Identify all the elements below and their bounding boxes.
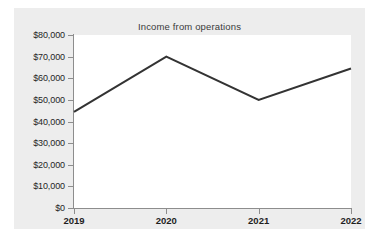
- chart-figure: Income from operations $0$10,000$20,000$…: [14, 8, 365, 229]
- y-axis-tick-label: $70,000: [0, 52, 65, 62]
- income-from-operations-line: [74, 57, 351, 112]
- y-axis-tick-label: $10,000: [0, 181, 65, 191]
- y-axis-tick-label: $20,000: [0, 160, 65, 170]
- y-axis-tick-label: $60,000: [0, 73, 65, 83]
- y-axis-tick: [68, 78, 73, 79]
- x-axis-tick-label: 2020: [131, 215, 201, 226]
- series-line-chart: [74, 35, 351, 208]
- x-axis-tick: [259, 209, 260, 214]
- x-axis-spine: [73, 208, 352, 209]
- y-axis-tick: [68, 122, 73, 123]
- y-axis-tick-label: $80,000: [0, 30, 65, 40]
- chart-title: Income from operations: [14, 21, 365, 32]
- x-axis-tick-label: 2022: [316, 215, 375, 226]
- y-axis-tick-label: $30,000: [0, 138, 65, 148]
- x-axis-tick-label: 2021: [224, 215, 294, 226]
- y-axis-tick: [68, 35, 73, 36]
- y-axis-tick: [68, 57, 73, 58]
- x-axis-tick: [166, 209, 167, 214]
- x-axis-tick: [351, 209, 352, 214]
- y-axis-tick: [68, 208, 73, 209]
- y-axis-tick-label: $0: [0, 203, 65, 213]
- plot-area: [74, 35, 351, 208]
- y-axis-tick: [68, 186, 73, 187]
- y-axis-tick-label: $40,000: [0, 117, 65, 127]
- x-axis-tick-label: 2019: [39, 215, 109, 226]
- y-axis-tick: [68, 100, 73, 101]
- y-axis-tick: [68, 143, 73, 144]
- y-axis-tick: [68, 165, 73, 166]
- x-axis-tick: [74, 209, 75, 214]
- y-axis-tick-label: $50,000: [0, 95, 65, 105]
